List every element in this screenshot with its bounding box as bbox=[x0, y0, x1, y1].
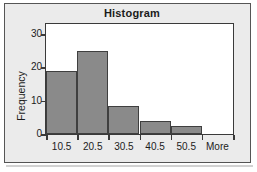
x-axis-tick-mark bbox=[202, 135, 204, 140]
y-axis-tick-labels: 0102030 bbox=[18, 0, 42, 172]
x-axis-tick-mark bbox=[233, 135, 235, 140]
x-axis-tick-labels: 10.520.530.540.550.5More bbox=[46, 141, 234, 157]
chart-title: Histogram bbox=[40, 7, 224, 19]
panel-shadow bbox=[6, 165, 253, 167]
y-axis-tick-label: 20 bbox=[20, 61, 42, 72]
y-axis-tick-label: 30 bbox=[20, 28, 42, 39]
x-axis-tick-mark bbox=[108, 135, 110, 140]
x-axis-tick-mark bbox=[171, 135, 173, 140]
histogram-bar bbox=[171, 126, 202, 134]
histogram-figure: Histogram Frequency 0102030 10.520.530.5… bbox=[0, 0, 257, 172]
bars-layer bbox=[46, 24, 233, 134]
histogram-bar bbox=[108, 106, 139, 134]
y-axis-tick-label: 10 bbox=[20, 95, 42, 106]
x-axis-tick-mark bbox=[46, 135, 48, 140]
histogram-bar bbox=[77, 51, 108, 134]
histogram-bar bbox=[46, 71, 77, 134]
y-axis-tick-label: 0 bbox=[20, 128, 42, 139]
x-axis-tick-mark bbox=[77, 135, 79, 140]
x-axis-tick-mark bbox=[140, 135, 142, 140]
histogram-bar bbox=[140, 121, 171, 134]
x-axis-tick-label: More bbox=[198, 141, 237, 152]
